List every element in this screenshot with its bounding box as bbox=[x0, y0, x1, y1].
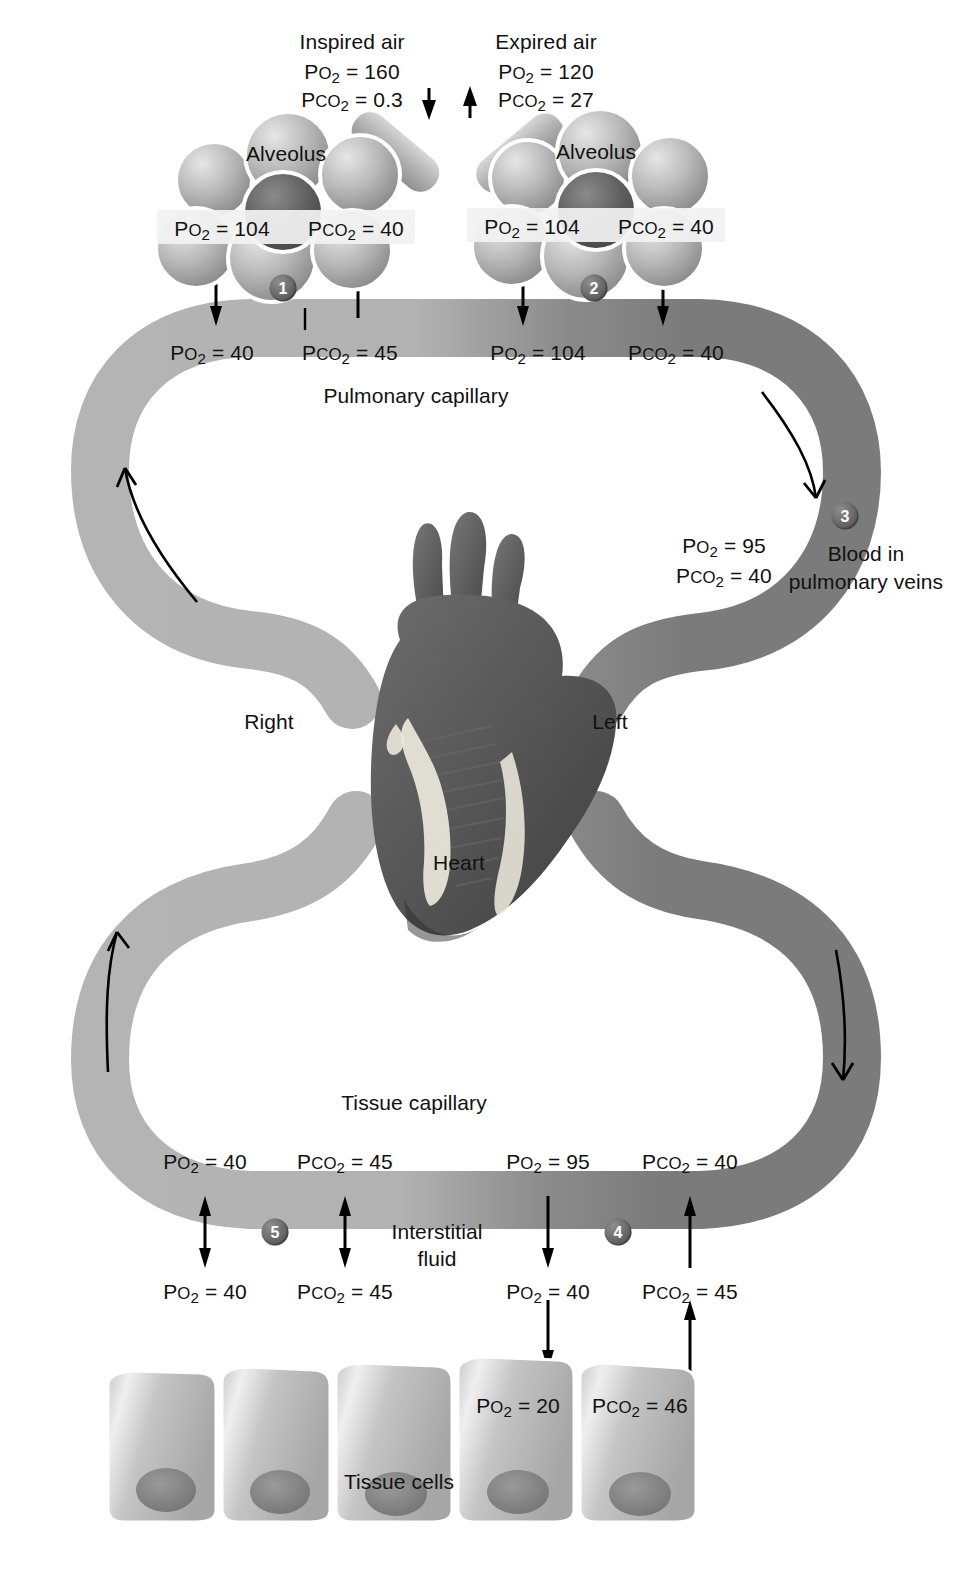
tissue-cell-row bbox=[108, 1357, 696, 1522]
marker-3[interactable]: 3 bbox=[832, 503, 859, 530]
tissue-cell bbox=[580, 1363, 696, 1522]
alveolus-pco2-left: Pco2 = 40 bbox=[308, 215, 404, 245]
tissue-cells-label: Tissue cells bbox=[344, 1468, 454, 1496]
tissue-capillary-pco2-out: Pco2 = 45 bbox=[297, 1148, 393, 1178]
marker-1[interactable]: 1 bbox=[270, 275, 297, 302]
heart-label: Heart bbox=[433, 849, 485, 877]
interstitial-fluid-label-line2: fluid bbox=[417, 1245, 456, 1273]
tissue-capillary-po2-in: Po2 = 95 bbox=[506, 1148, 590, 1178]
alveolus-label-right: Alveolus bbox=[556, 138, 636, 166]
pulmonary-vein-po2: Po2 = 95 bbox=[682, 532, 766, 562]
tissue-capillary-label: Tissue capillary bbox=[341, 1089, 487, 1117]
pulmonary-capillary-pco2-in: Pco2 = 45 bbox=[302, 339, 398, 369]
expired-air-title: Expired air bbox=[495, 28, 596, 56]
pulmonary-capillary-label: Pulmonary capillary bbox=[323, 382, 508, 410]
inspired-air-title: Inspired air bbox=[299, 28, 404, 56]
pulmonary-capillary-po2-out: Po2 = 104 bbox=[490, 339, 585, 369]
tissue-cell-pco2: Pco2 = 46 bbox=[592, 1392, 688, 1422]
alveolus-pco2-right: Pco2 = 40 bbox=[618, 213, 714, 243]
heart-side-right: Right bbox=[244, 708, 294, 736]
interstitial-po2-right: Po2 = 40 bbox=[506, 1278, 590, 1308]
interstitial-pco2-right: Pco2 = 45 bbox=[642, 1278, 738, 1308]
marker-5[interactable]: 5 bbox=[262, 1219, 289, 1246]
pulmonary-veins-caption-line1: Blood in bbox=[828, 540, 905, 568]
tissue-cell bbox=[458, 1357, 574, 1522]
inspired-air-po2: Po2 = 160 bbox=[304, 58, 399, 88]
tissue-capillary-po2-out: Po2 = 40 bbox=[163, 1148, 247, 1178]
marker-4[interactable]: 4 bbox=[605, 1219, 632, 1246]
interstitial-fluid-label-line1: Interstitial bbox=[391, 1218, 482, 1246]
pulmonary-vein-pco2: Pco2 = 40 bbox=[676, 562, 772, 592]
interstitial-pco2-left: Pco2 = 45 bbox=[297, 1278, 393, 1308]
tissue-capillary-pco2-in: Pco2 = 40 bbox=[642, 1148, 738, 1178]
heart-side-left: Left bbox=[592, 708, 627, 736]
alveolus-po2-right: Po2 = 104 bbox=[484, 213, 579, 243]
gas-exchange-diagram: Inspired air Po2 = 160 Pco2 = 0.3 Expire… bbox=[0, 0, 978, 1594]
pulmonary-capillary-po2-in: Po2 = 40 bbox=[170, 339, 254, 369]
interstitial-po2-left: Po2 = 40 bbox=[163, 1278, 247, 1308]
alveolus-label-left: Alveolus bbox=[246, 140, 326, 168]
expired-air-pco2: Pco2 = 27 bbox=[498, 86, 594, 116]
tissue-cell bbox=[336, 1363, 452, 1522]
alveolus-po2-left: Po2 = 104 bbox=[174, 215, 269, 245]
tissue-cell bbox=[222, 1367, 330, 1522]
pulmonary-capillary-pco2-out: Pco2 = 40 bbox=[628, 339, 724, 369]
tissue-cell-po2: Po2 = 20 bbox=[476, 1392, 560, 1422]
tissue-cell bbox=[108, 1371, 216, 1522]
marker-2[interactable]: 2 bbox=[581, 275, 608, 302]
inspired-air-pco2: Pco2 = 0.3 bbox=[301, 86, 403, 116]
expired-air-po2: Po2 = 120 bbox=[498, 58, 593, 88]
pulmonary-veins-caption-line2: pulmonary veins bbox=[789, 568, 943, 596]
